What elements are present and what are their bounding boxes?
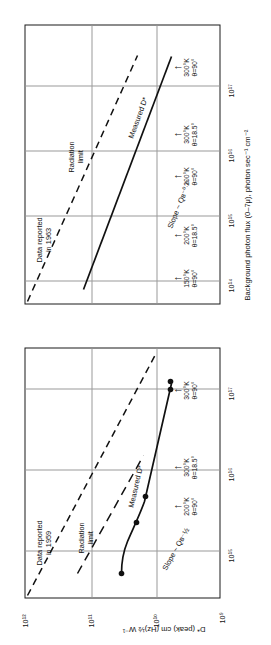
arrow-icon: ↑ xyxy=(172,154,181,198)
panel-1963: Data reported in 1963 Radiation limit Sl… xyxy=(0,0,271,322)
arrow-icon: ↑ xyxy=(172,256,181,300)
radiation-limit-label-1959: Radiation limit xyxy=(76,522,94,553)
xtick-1959-1e16: 10¹⁶ xyxy=(226,467,235,481)
annotation-temp: 300°K xyxy=(182,381,189,400)
figure: Data reported in 1959 Radiation limit Sl… xyxy=(0,0,271,645)
annotation-theta: θ=18.5° xyxy=(190,223,197,247)
y-axis-title: D* (peak) cm (Hz)½ W⁻¹ xyxy=(122,624,205,633)
annotation-300K-90-1959: ↑ 300°K θ=90° xyxy=(172,367,198,413)
arrow-icon: ↑ xyxy=(172,44,181,90)
y-axis-title-text: D* (peak) cm (Hz)½ W⁻¹ xyxy=(122,624,205,633)
annotation-temp: 200°K xyxy=(182,226,189,245)
arrow-icon: ↑ xyxy=(172,109,181,159)
panel-title-line2: in 1959 xyxy=(43,530,52,554)
annotation-200K-18p5-1963: ↑ 200°K θ=18.5° xyxy=(172,210,198,260)
measured-dstar-curve-1963 xyxy=(83,56,171,289)
radiation-limit-line1: Radiation xyxy=(76,522,85,553)
annotation-theta: θ=18.5° xyxy=(190,122,197,146)
panel-title-1963: Data reported in 1963 xyxy=(34,217,52,262)
annotation-300K-18p5-1963: ↑ 300°K θ=18.5° xyxy=(172,109,198,159)
panel-title-line2: in 1963 xyxy=(43,227,52,251)
ytick-1959-1e12: 10¹² xyxy=(20,614,29,627)
annotation-temp: 200°K xyxy=(182,167,189,186)
annotation-theta: θ=18.5° xyxy=(190,455,197,479)
ytick-1959-1e11: 10¹¹ xyxy=(86,614,95,627)
measured-dstar-curve-1959 xyxy=(121,383,171,573)
figure-rotation-wrapper: Data reported in 1959 Radiation limit Sl… xyxy=(0,0,271,645)
radiation-limit-label-1963: Radiation limit xyxy=(66,141,84,172)
annotation-temp: 300°K xyxy=(182,58,189,77)
annotation-theta: θ=90° xyxy=(190,167,197,185)
arrow-icon: ↑ xyxy=(172,442,181,492)
arrow-icon: ↑ xyxy=(172,210,181,260)
annotation-theta: θ=90° xyxy=(190,497,197,515)
annotation-temp: 150°K xyxy=(182,269,189,288)
panel-title-line1: Data reported xyxy=(34,520,43,565)
annotation-temp: 300°K xyxy=(182,125,189,144)
xtick-1963-1e17: 10¹⁷ xyxy=(226,84,235,97)
annotation-theta: θ=90° xyxy=(190,269,197,287)
x-axis-title: Background photon flux (0–7μ), photon se… xyxy=(242,129,251,300)
xtick-1963-1e16: 10¹⁶ xyxy=(226,148,235,162)
radiation-limit-line-1963 xyxy=(27,55,137,301)
radiation-limit-line1: Radiation xyxy=(66,141,75,172)
xtick-1959-1e17: 10¹⁷ xyxy=(226,387,235,400)
panel-title-1959: Data reported in 1959 xyxy=(34,520,52,565)
xtick-1963-1e15: 10¹⁵ xyxy=(226,213,235,227)
xtick-1959-1e15: 10¹⁵ xyxy=(226,548,235,562)
annotation-temp: 300°K xyxy=(182,458,189,477)
radiation-limit-line2: limit xyxy=(75,150,84,163)
data-point xyxy=(133,519,139,525)
annotation-temp: 200°K xyxy=(182,497,189,516)
annotation-theta: θ=90° xyxy=(190,58,197,76)
panel-title-line1: Data reported xyxy=(34,217,43,262)
annotation-theta: θ=90° xyxy=(190,381,197,399)
data-point xyxy=(118,570,124,576)
arrow-icon: ↑ xyxy=(172,367,181,413)
annotation-150K-90-1963: ↑ 150°K θ=90° xyxy=(172,256,198,300)
annotation-200K-90-1963: ↑ 200°K θ=90° xyxy=(172,154,198,198)
x-axis-title-text: Background photon flux (0–7μ), photon se… xyxy=(242,129,251,300)
panel-1959: Data reported in 1959 Radiation limit Sl… xyxy=(0,323,271,645)
xtick-1963-1e14: 10¹⁴ xyxy=(226,278,235,292)
annotation-300K-90-1963: ↑ 300°K θ=90° xyxy=(172,44,198,90)
annotation-300K-18p5-1959: ↑ 300°K θ=18.5° xyxy=(172,442,198,492)
radiation-limit-line2: limit xyxy=(85,531,94,544)
ytick-1959-1e9: 10⁹ xyxy=(217,612,226,623)
